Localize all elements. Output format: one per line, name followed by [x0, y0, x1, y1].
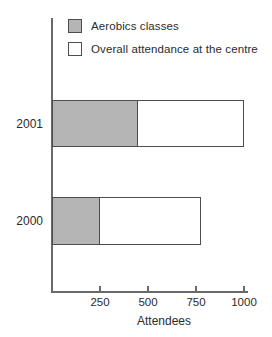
category-label-2000: 2000 [5, 214, 43, 228]
legend-label-overall: Overall attendance at the centre [91, 43, 258, 55]
legend-item-overall: Overall attendance at the centre [68, 42, 258, 56]
bar-chart: Aerobics classes Overall attendance at t… [0, 0, 272, 337]
x-tick-750 [195, 286, 197, 291]
y-axis-line [51, 18, 53, 293]
x-tick-label-750: 750 [174, 296, 218, 308]
overall-swatch [68, 42, 82, 56]
aerobics-swatch [68, 19, 82, 33]
legend-item-aerobics: Aerobics classes [68, 19, 258, 33]
aerobics-segment-2000 [52, 197, 100, 245]
legend-label-aerobics: Aerobics classes [91, 20, 179, 32]
x-tick-label-250: 250 [78, 296, 122, 308]
x-tick-500 [147, 286, 149, 291]
aerobics-segment-2001 [52, 100, 138, 147]
x-tick-label-500: 500 [126, 296, 170, 308]
category-label-2001: 2001 [5, 117, 43, 131]
x-tick-250 [99, 286, 101, 291]
x-tick-label-1000: 1000 [222, 296, 266, 308]
legend: Aerobics classes Overall attendance at t… [68, 19, 258, 65]
x-axis-title: Attendees [114, 314, 214, 328]
x-tick-1000 [243, 286, 245, 291]
x-axis-line [51, 291, 248, 293]
